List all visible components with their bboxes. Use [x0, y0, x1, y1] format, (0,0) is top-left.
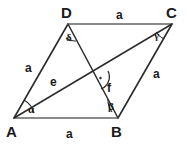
diagonal-label-f: f — [107, 82, 111, 94]
angle-label-delta: δ — [66, 32, 72, 43]
side-bc-line — [118, 24, 172, 118]
side-ad-line — [14, 24, 68, 118]
side-label-right: a — [153, 68, 160, 80]
vertex-label-a: A — [6, 124, 17, 139]
angle-label-beta: β — [108, 101, 114, 112]
right-angle-dot — [99, 77, 101, 79]
side-label-left: a — [25, 62, 32, 74]
vertex-label-c: C — [166, 5, 177, 20]
angle-label-gamma: γ — [154, 30, 159, 41]
angle-label-alpha: α — [28, 104, 34, 115]
vertex-label-b: B — [111, 124, 122, 139]
side-label-bottom: a — [66, 128, 73, 140]
vertex-label-d: D — [61, 5, 72, 20]
side-label-top: a — [116, 9, 123, 21]
diagonal-label-e: e — [50, 76, 57, 88]
rhombus-figure: D C A B a a a a e f α β γ δ — [0, 0, 187, 147]
